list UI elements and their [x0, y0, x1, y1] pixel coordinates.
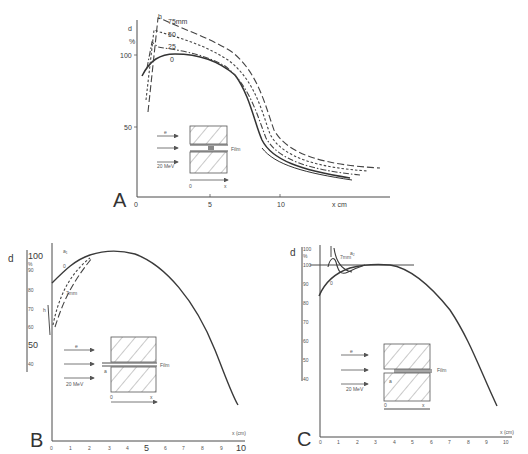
svg-text:x: x	[224, 183, 227, 189]
panel-a-y-label: d	[128, 25, 132, 32]
svg-text:9: 9	[485, 439, 488, 445]
svg-text:9: 9	[220, 445, 223, 451]
svg-text:e: e	[350, 348, 353, 354]
svg-text:x: x	[422, 402, 425, 408]
svg-text:Film: Film	[437, 367, 446, 373]
svg-text:20 MeV: 20 MeV	[66, 381, 84, 387]
svg-text:40: 40	[28, 361, 34, 367]
panel-b-inset-diagram: e 20 MeV Film a 0 x	[64, 337, 169, 402]
svg-text:a: a	[389, 378, 392, 384]
svg-text:6: 6	[430, 439, 433, 445]
panel-a-x-tick-5: 5	[208, 201, 212, 208]
svg-text:3: 3	[374, 439, 377, 445]
panel-a-inset-film-label: Film	[231, 146, 240, 152]
svg-text:2: 2	[88, 445, 91, 451]
svg-text:6: 6	[164, 445, 167, 451]
panel-a-x-tick-10: 10	[277, 201, 285, 208]
panel-c: d 100 % 100 90 80 70 60 50 40 0 1 2 3 4 …	[290, 245, 514, 450]
svg-text:4: 4	[126, 445, 129, 451]
svg-text:7: 7	[448, 439, 451, 445]
panel-b-curve-label-a: a₁	[63, 248, 68, 254]
svg-text:80: 80	[28, 287, 34, 293]
panel-c-x-ticks: 0 1 2 3 4 5 6 7 8 9 10	[319, 439, 509, 445]
panel-c-inset-diagram: e 20 MeV Film a 0 x	[341, 344, 446, 409]
svg-text:80: 80	[303, 300, 309, 306]
panel-a-x-tick-0: 0	[134, 201, 138, 208]
panel-a-y-tick-100: 100	[120, 52, 132, 59]
svg-text:%: %	[303, 253, 308, 259]
svg-text:50: 50	[28, 340, 38, 350]
panel-b-x-ticks: 0 1 2 3 4 5 6 7 8 9 10	[50, 443, 246, 453]
svg-text:7mm: 7mm	[340, 254, 351, 260]
panel-a-curve-label-75mm: 75mm	[168, 18, 188, 25]
svg-text:a: a	[104, 368, 107, 374]
panel-a-label: A	[113, 189, 127, 211]
svg-text:0: 0	[189, 183, 192, 189]
svg-text:10: 10	[503, 439, 509, 445]
panel-c-x-label: x (cm)	[500, 429, 514, 435]
svg-text:60: 60	[28, 324, 34, 330]
svg-text:50: 50	[303, 357, 309, 363]
svg-text:70: 70	[303, 319, 309, 325]
svg-text:90: 90	[303, 281, 309, 287]
svg-text:0: 0	[110, 394, 113, 400]
panel-a-h-label: h	[158, 13, 162, 20]
svg-text:10: 10	[236, 443, 246, 453]
svg-text:60: 60	[303, 338, 309, 344]
svg-text:7mm: 7mm	[66, 290, 77, 296]
svg-text:0: 0	[330, 280, 333, 286]
svg-text:5: 5	[144, 443, 149, 453]
panel-a-curve-75	[148, 18, 380, 168]
svg-text:1: 1	[337, 439, 340, 445]
panel-b: d 100 % 90 80 70 60 50 40 0 1 2 3 4 5 6 …	[8, 243, 246, 453]
panel-a-curve-label-25: 25	[168, 43, 176, 50]
svg-text:Film: Film	[160, 362, 169, 368]
svg-text:0: 0	[50, 445, 53, 451]
svg-text:0: 0	[63, 263, 66, 269]
svg-text:8: 8	[467, 439, 470, 445]
svg-text:40: 40	[303, 376, 309, 382]
svg-text:1: 1	[69, 445, 72, 451]
svg-text:2: 2	[356, 439, 359, 445]
panel-a-y-unit: %	[129, 38, 135, 45]
panel-b-x-label: x (cm)	[232, 430, 246, 436]
panel-c-y-label: d	[290, 247, 296, 258]
panel-b-label: B	[30, 429, 43, 451]
svg-text:8: 8	[201, 445, 204, 451]
svg-text:4: 4	[393, 439, 396, 445]
panel-a-inset-energy: 20 MeV	[157, 163, 175, 169]
panel-a-curve-50	[146, 30, 368, 171]
panel-a-curve-label-50: 50	[168, 31, 176, 38]
svg-text:0: 0	[319, 439, 322, 445]
svg-text:100: 100	[303, 246, 312, 252]
svg-text:90: 90	[28, 267, 34, 273]
svg-text:20 MeV: 20 MeV	[346, 386, 364, 392]
panel-a-inset-diagram: e 20 MeV Film 0 x	[157, 126, 240, 189]
svg-text:7: 7	[182, 445, 185, 451]
panel-c-label: C	[297, 428, 311, 450]
svg-text:5: 5	[411, 439, 414, 445]
svg-text:70: 70	[28, 306, 34, 312]
svg-text:x: x	[150, 394, 153, 400]
svg-text:e: e	[75, 343, 78, 349]
svg-text:100: 100	[303, 262, 312, 268]
panel-a-curve-label-0: 0	[170, 56, 174, 63]
panel-a: d % 100 50 0 5 10 x cm A h 75mm 50 25 0 …	[113, 13, 390, 211]
panel-a-x-label: x cm	[332, 201, 347, 208]
svg-text:3: 3	[108, 445, 111, 451]
panel-a-inset-beam-symbol: e	[164, 129, 167, 135]
panel-a-y-tick-50: 50	[124, 124, 132, 131]
panel-b-y-label: d	[8, 253, 14, 264]
panel-b-y-tick-100: 100	[28, 251, 43, 261]
svg-text:h: h	[43, 307, 46, 313]
panel-a-curve-25	[147, 42, 360, 175]
svg-text:0: 0	[384, 402, 387, 408]
figure-canvas: d % 100 50 0 5 10 x cm A h 75mm 50 25 0 …	[0, 0, 528, 454]
